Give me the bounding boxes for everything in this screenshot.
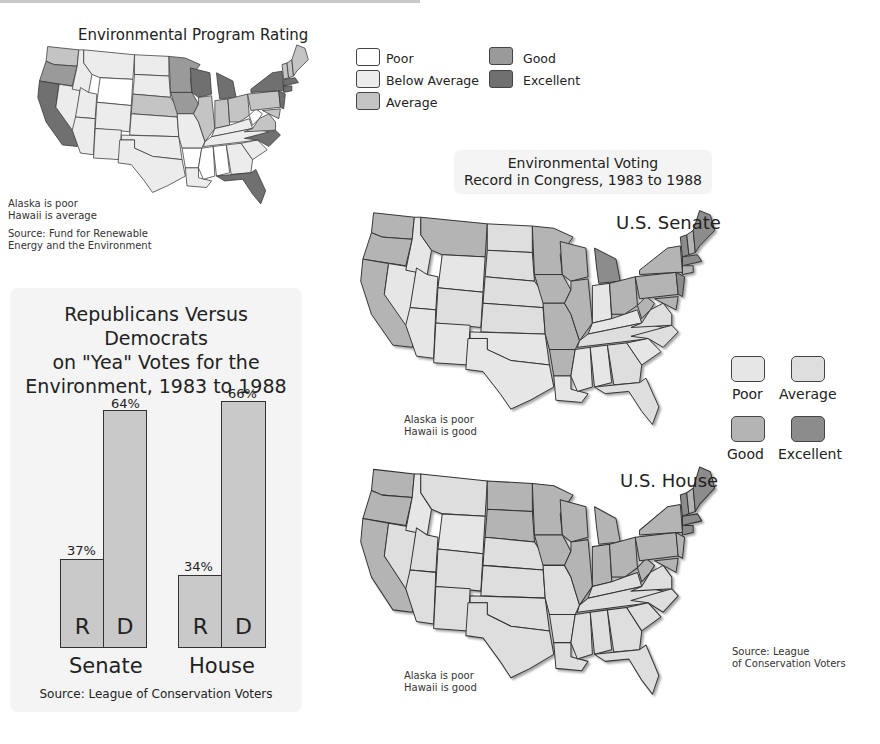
house-map-title: U.S. House	[620, 470, 718, 491]
chart-title-line: Republicans Versus Democrats	[10, 302, 302, 350]
state-wy	[97, 78, 133, 106]
state-ny	[640, 246, 683, 275]
state-fl	[595, 378, 659, 424]
voting-title-line: Environmental Voting	[454, 155, 712, 172]
program-map-note: Alaska is poor Hawaii is average	[8, 198, 97, 222]
state-ks	[481, 565, 545, 598]
source-line: Source: League	[732, 646, 846, 658]
state-ma	[682, 255, 701, 266]
legend-label-average: Average	[386, 95, 437, 110]
house-d-value: 66%	[228, 386, 257, 401]
program-rating-map	[4, 40, 338, 208]
state-fl	[216, 169, 265, 203]
chart-title-line: on "Yea" Votes for the	[10, 350, 302, 374]
state-sd	[133, 74, 171, 97]
state-wi	[560, 241, 588, 281]
state-az	[72, 117, 95, 155]
legend-swatch-below-average	[356, 70, 380, 88]
senate-label: Senate	[69, 654, 143, 678]
state-in	[592, 544, 611, 586]
state-pa	[635, 272, 678, 298]
legend-swatch-excellent	[489, 70, 513, 88]
senate-r-bar: R	[60, 559, 105, 648]
state-nd	[135, 55, 169, 76]
state-ct	[682, 266, 693, 275]
alaska-note: Alaska is poor	[404, 414, 477, 426]
senate-d-value: 64%	[111, 396, 140, 411]
source-line: of Conservation Voters	[732, 658, 846, 670]
voting-title: Environmental Voting Record in Congress,…	[454, 155, 712, 189]
alaska-note: Alaska is poor	[404, 670, 477, 682]
alaska-note: Alaska is poor	[8, 198, 97, 210]
legend-swatch-average	[356, 92, 380, 110]
state-ma	[284, 78, 299, 86]
state-mi	[595, 248, 621, 283]
bar-letter-d: D	[104, 614, 146, 639]
legend-label-poor: Poor	[386, 51, 414, 66]
chart-title: Republicans Versus Democrats on "Yea" Vo…	[10, 302, 302, 398]
state-nm	[434, 586, 470, 630]
senate-map	[350, 204, 720, 430]
top-edge-bar	[0, 0, 420, 3]
state-ma	[682, 514, 701, 526]
state-ne	[483, 277, 545, 308]
legend-label-poor: Poor	[732, 386, 763, 402]
state-oh	[228, 94, 249, 122]
senate-d-bar: D	[103, 410, 147, 648]
state-ct	[284, 86, 292, 93]
state-ne	[131, 94, 179, 117]
state-me	[292, 45, 308, 76]
legend-label-good: Good	[523, 51, 556, 66]
bar-letter-d: D	[222, 614, 265, 639]
state-mi	[595, 507, 621, 544]
state-in	[592, 283, 611, 323]
senate-map-title: U.S. Senate	[616, 212, 721, 233]
state-ms	[198, 147, 214, 180]
state-nm	[434, 323, 470, 365]
voting-title-line: Record in Congress, 1983 to 1988	[454, 172, 712, 189]
house-r-value: 34%	[184, 559, 213, 574]
legend-swatch-poor	[731, 356, 765, 382]
state-sd	[485, 250, 534, 281]
senate-r-value: 37%	[67, 543, 96, 558]
chart-title-line: Environment, 1983 to 1988	[10, 374, 302, 398]
source-line: Source: Fund for Renewable	[8, 228, 152, 240]
state-ct	[682, 526, 693, 535]
state-pa	[248, 91, 281, 111]
state-oh	[610, 277, 638, 314]
legend-label-below-average: Below Average	[386, 73, 479, 88]
hawaii-note: Hawaii is good	[404, 426, 477, 438]
legend-swatch-good	[489, 47, 513, 65]
state-wi	[190, 68, 211, 98]
state-ne	[483, 537, 545, 570]
state-ny	[251, 71, 284, 92]
house-d-bar: D	[221, 401, 266, 648]
state-in	[215, 99, 230, 129]
legend-label-excellent: Excellent	[778, 446, 842, 462]
state-fl	[595, 645, 659, 694]
program-map-source: Source: Fund for Renewable Energy and th…	[8, 228, 152, 252]
house-label: House	[189, 654, 255, 678]
legend-label-average: Average	[779, 386, 837, 402]
house-map-source: Source: League of Conservation Voters	[732, 646, 846, 670]
source-line: Energy and the Environment	[8, 240, 152, 252]
hawaii-note: Hawaii is good	[404, 682, 477, 694]
hawaii-note: Hawaii is average	[8, 210, 97, 222]
state-ks	[130, 114, 179, 137]
legend-swatch-good	[731, 416, 765, 442]
state-ms	[571, 612, 592, 659]
legend-label-excellent: Excellent	[523, 73, 580, 88]
state-pa	[635, 533, 678, 561]
state-co	[436, 288, 483, 328]
state-ms	[571, 347, 592, 391]
senate-map-note: Alaska is poor Hawaii is good	[404, 414, 477, 438]
bar-letter-r: R	[179, 614, 222, 639]
state-nd	[487, 224, 532, 253]
state-co	[95, 102, 131, 132]
legend-swatch-poor	[356, 48, 380, 66]
legend-swatch-average	[791, 356, 825, 382]
chart-source: Source: League of Conservation Voters	[10, 687, 302, 701]
state-az	[406, 308, 436, 359]
state-co	[436, 549, 483, 591]
state-ks	[481, 303, 545, 334]
